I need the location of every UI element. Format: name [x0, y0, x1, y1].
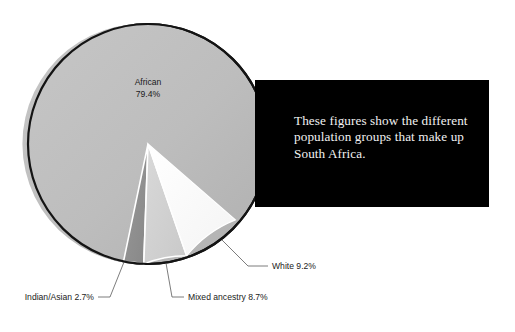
figure-container: African 79.4% White 9.2% Mixed ancestry …: [0, 0, 515, 332]
callout-label-mixed-ancestry: Mixed ancestry 8.7%: [188, 292, 268, 302]
callout-label-white: White 9.2%: [272, 261, 316, 271]
annotation-box: These figures show the different populat…: [255, 80, 489, 207]
leader-line-white: [222, 240, 268, 266]
slice-label-african-name: African: [135, 77, 162, 87]
leader-line-mixed-ancestry: [166, 263, 184, 297]
callout-label-indian-asian: Indian/Asian 2.7%: [25, 292, 95, 302]
annotation-text: These figures show the different populat…: [294, 113, 479, 162]
slice-label-african-value: 79.4%: [136, 89, 161, 99]
leader-line-indian-asian: [98, 262, 124, 297]
